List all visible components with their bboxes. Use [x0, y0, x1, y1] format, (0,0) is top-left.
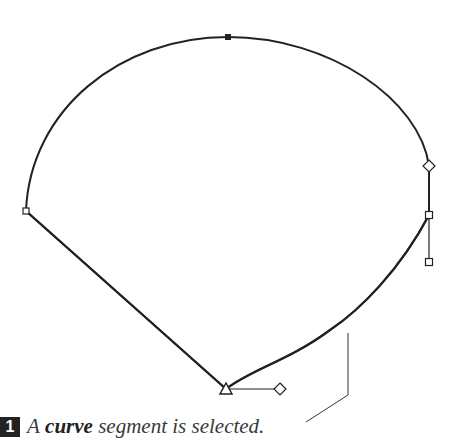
selected-curve-segment[interactable]	[226, 215, 429, 389]
anchor-top-icon[interactable]	[225, 34, 231, 40]
path-outline	[26, 37, 429, 389]
anchor-left-icon[interactable]	[23, 208, 29, 214]
handle-diamond-bottom-icon[interactable]	[274, 383, 286, 395]
caption-suffix: segment is selected.	[98, 414, 264, 439]
bezier-path-diagram	[0, 0, 459, 446]
callout-leader-line	[306, 333, 348, 422]
caption-prefix: A	[27, 414, 40, 439]
handle-square-right-icon[interactable]	[426, 259, 433, 266]
straight-segment	[26, 211, 226, 389]
anchor-right-icon[interactable]	[426, 212, 433, 219]
caption: 1 A curve segment is selected.	[0, 414, 264, 439]
step-number-badge: 1	[0, 417, 20, 437]
caption-emphasis: curve	[45, 414, 93, 439]
handle-diamond-right-icon[interactable]	[423, 160, 435, 172]
